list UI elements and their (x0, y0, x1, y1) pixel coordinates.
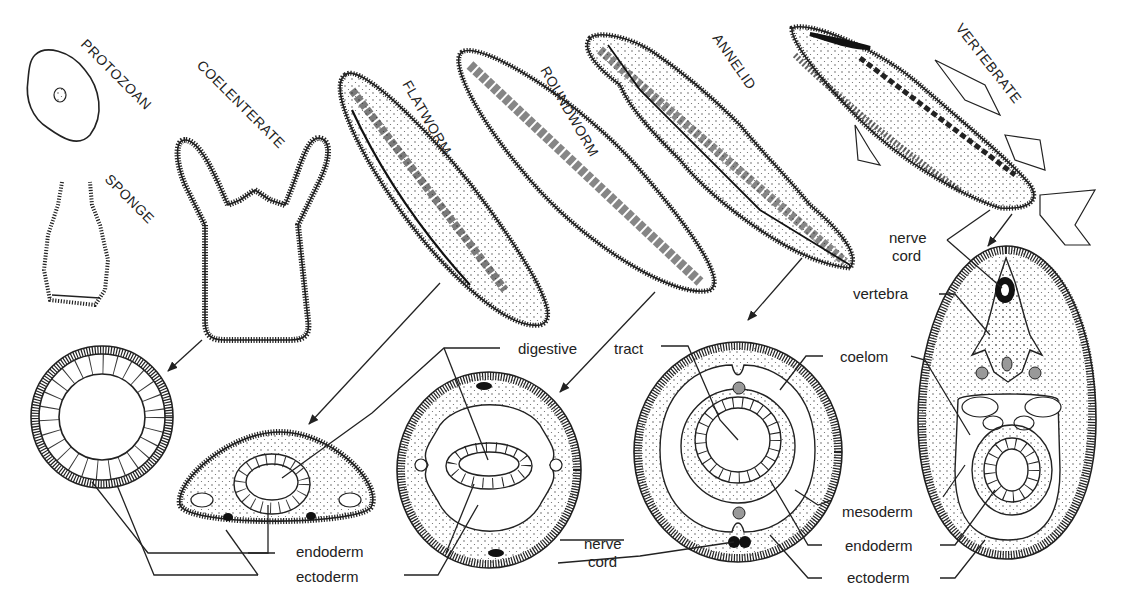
label-tract: tract (614, 340, 644, 357)
cross-section-roundworm (397, 372, 581, 568)
cross-section-annelid (634, 342, 842, 562)
label-nerve-cord-mid-line1: nerve (584, 535, 622, 552)
cross-section-coelenterate (31, 346, 173, 488)
cross-section-flatworm (180, 432, 373, 521)
protozoan-drawing (27, 50, 99, 141)
arrow-vertebrate (988, 214, 1012, 246)
vertebrate-drawing (792, 27, 1095, 245)
label-endoderm-right: endoderm (845, 537, 913, 554)
label-mesoderm: mesoderm (842, 503, 913, 520)
arrow-coelenterate (168, 340, 202, 371)
label-digestive: digestive (518, 340, 577, 357)
label-endoderm-left: endoderm (296, 543, 364, 560)
label-nerve-cord-mid-line2: cord (588, 553, 617, 570)
label-vertebra: vertebra (853, 285, 909, 302)
coelenterate-drawing (178, 138, 329, 340)
cross-section-vertebrate (918, 246, 1096, 559)
arrow-flatworm (309, 283, 440, 424)
label-ectoderm-left: ectoderm (296, 568, 359, 585)
label-nerve-cord-top-line2: cord (892, 247, 921, 264)
arrow-annelid (748, 258, 802, 320)
label-annelid: ANNELID (710, 31, 760, 93)
label-sponge: SPONGE (102, 171, 158, 227)
label-ectoderm-right: ectoderm (847, 569, 910, 586)
label-coelom: coelom (840, 348, 888, 365)
label-nerve-cord-top-line1: nerve (889, 229, 927, 246)
body-plan-diagram: PROTOZOAN SPONGE COELENTERATE FLATWORM R… (0, 0, 1127, 604)
label-protozoan: PROTOZOAN (78, 36, 155, 113)
sponge-drawing (44, 182, 108, 305)
label-coelenterate: COELENTERATE (194, 57, 289, 152)
